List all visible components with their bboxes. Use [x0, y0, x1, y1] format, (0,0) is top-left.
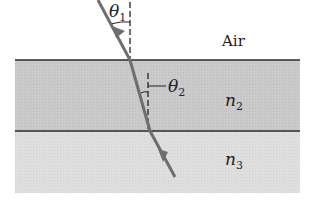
theta1-label: θ1	[109, 1, 126, 24]
refraction-diagram: θ1 θ2 Air n2 n3	[0, 0, 320, 202]
air-label: Air	[221, 32, 246, 50]
